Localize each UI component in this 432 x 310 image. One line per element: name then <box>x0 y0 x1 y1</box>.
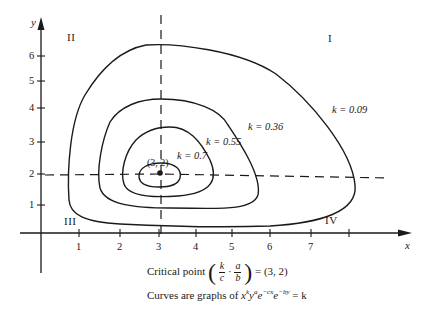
y-tick-label-2: 2 <box>29 169 34 180</box>
x-axis-label: x <box>405 240 410 251</box>
x-tick-label-3: 3 <box>156 242 161 253</box>
open-paren: ( <box>208 259 216 285</box>
quadrant-label-ii: II <box>67 32 75 43</box>
horizontal-dashed-line <box>45 174 390 178</box>
x-tick-label-2: 2 <box>117 242 122 253</box>
critical-point-marker <box>157 170 163 176</box>
caption-critical-point: Critical point ( kc · ab ) = (3, 2) <box>147 260 288 284</box>
fraction-k-over-c: kc <box>219 261 225 283</box>
y-tick-label-1: 1 <box>29 200 34 211</box>
critical-point-label: (3, 2) <box>147 158 169 168</box>
y-tick-label-4: 4 <box>29 103 34 114</box>
x-tick-label-4: 4 <box>193 242 198 253</box>
curve-label-k-0.7: k = 0.7 <box>177 151 207 162</box>
fraction-a-over-b: ab <box>234 261 241 283</box>
x-tick-label-7: 7 <box>308 242 313 253</box>
caption-curves-equation: Curves are graphs of xkyae−cxe−by = k <box>147 289 307 301</box>
curve-label-k-0.09: k = 0.09 <box>332 105 367 116</box>
y-tick-label-3: 3 <box>29 137 34 148</box>
x-tick-label-6: 6 <box>267 242 272 253</box>
quadrant-label-iv: IV <box>325 215 338 226</box>
y-axis-label: y <box>31 17 36 28</box>
y-tick-label-5: 5 <box>29 76 34 87</box>
quadrant-label-i: I <box>328 33 332 44</box>
x-tick-label-1: 1 <box>76 242 81 253</box>
quadrant-label-iii: III <box>64 216 77 227</box>
close-paren: ) <box>244 259 252 285</box>
curve-label-k-0.55: k = 0.55 <box>206 137 241 148</box>
curve-label-k-0.36: k = 0.36 <box>248 122 283 133</box>
y-tick-label-6: 6 <box>29 51 34 62</box>
x-tick-label-5: 5 <box>229 242 234 253</box>
x-axis-arrow-icon <box>398 230 412 237</box>
phase-plane-figure: y x 6 5 4 3 2 1 1 2 3 4 5 6 7 II I III I… <box>0 0 432 310</box>
y-axis-arrow-icon <box>38 17 45 30</box>
